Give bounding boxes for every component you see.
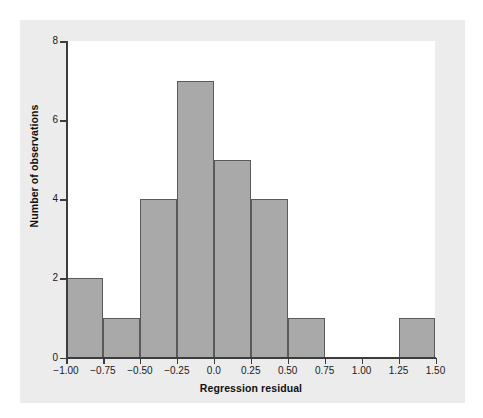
histogram-bar — [103, 318, 140, 358]
x-axis-tick-mark — [436, 358, 438, 364]
y-axis-title: Number of observations — [28, 66, 40, 266]
histogram-bar — [288, 318, 325, 358]
y-axis-tick-mark — [60, 278, 66, 280]
y-axis-tick-label: 2 — [28, 273, 58, 283]
x-axis-tick-mark — [66, 358, 68, 364]
x-axis-tick-mark — [399, 358, 401, 364]
histogram-bar — [140, 199, 177, 357]
y-axis-tick-mark — [60, 199, 66, 201]
y-axis-tick-mark — [60, 120, 66, 122]
x-axis-tick-mark — [214, 358, 216, 364]
x-axis-tick-mark — [325, 358, 327, 364]
histogram-figure: 02468 −1.00−0.75−0.50−0.250.00.250.500.7… — [0, 0, 483, 418]
histogram-bar — [399, 318, 436, 358]
y-axis-tick-label: 8 — [28, 36, 58, 46]
y-axis-tick-mark — [60, 41, 66, 43]
x-axis-title: Regression residual — [66, 382, 436, 394]
y-axis-line — [66, 41, 68, 358]
histogram-bar — [177, 81, 214, 358]
x-axis-tick-mark — [140, 358, 142, 364]
x-axis-tick-label: 1.50 — [406, 366, 466, 376]
y-axis-tick-label: 0 — [28, 353, 58, 363]
histogram-bar — [251, 199, 288, 357]
histogram-bar — [214, 160, 251, 358]
x-axis-tick-mark — [288, 358, 290, 364]
x-axis-tick-mark — [362, 358, 364, 364]
x-axis-tick-mark — [251, 358, 253, 364]
x-axis-tick-mark — [177, 358, 179, 364]
histogram-bar — [66, 278, 103, 357]
x-axis-tick-mark — [103, 358, 105, 364]
